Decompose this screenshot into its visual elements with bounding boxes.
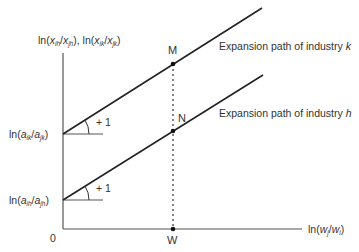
expansion-path-k-label: Expansion path of industry k <box>219 41 351 52</box>
point-m-label: M <box>168 45 177 56</box>
intercept-label-h: ln(aih/ajh) <box>9 195 49 208</box>
slope-label-k: + 1 <box>96 117 111 128</box>
point-w-label: W <box>167 235 177 246</box>
intercept-label-k: ln(aik/ajk) <box>9 129 48 142</box>
point-w-marker <box>171 227 176 232</box>
point-n-label: N <box>178 113 186 124</box>
expansion-path-h-label: Expansion path of industry h <box>219 108 352 119</box>
origin-label: 0 <box>50 233 56 244</box>
x-axis-label: ln(wj/wi) <box>308 224 344 237</box>
y-axis-label: ln(xih/xjh), ln(xik/xjk) <box>38 35 121 48</box>
point-n-marker <box>171 129 176 134</box>
point-m-marker <box>171 62 176 67</box>
expansion-path-h <box>63 75 263 200</box>
slope-arc-h <box>85 186 89 200</box>
slope-label-h: + 1 <box>96 183 111 194</box>
slope-arc-k <box>85 120 89 134</box>
